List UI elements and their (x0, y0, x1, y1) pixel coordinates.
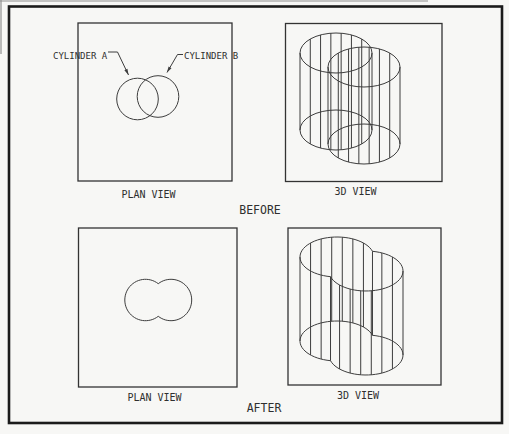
after-plan-frame (79, 228, 238, 387)
before-plan-caption: PLAN VIEW (121, 189, 176, 200)
cylinder-a-label: CYLINDER A (53, 51, 108, 61)
plan-union-outline (125, 279, 192, 320)
before-caption: BEFORE (239, 203, 281, 217)
after-plan-drawing (125, 279, 192, 320)
leader-arrows (108, 52, 183, 75)
leader-line (108, 52, 129, 75)
before-3d-drawing (300, 33, 400, 164)
leader-arrowhead (124, 69, 128, 75)
after-caption: AFTER (247, 401, 282, 415)
before-plan-drawing (117, 76, 179, 120)
after-3d-caption: 3D VIEW (337, 390, 380, 401)
before-3d-caption: 3D VIEW (334, 186, 377, 197)
union-bottom-outline (300, 321, 403, 375)
cylinder-b-label: CYLINDER B (184, 51, 238, 61)
cylinder-top-ellipse (300, 33, 372, 73)
scanned-figure-page: CYLINDER A CYLINDER B PLAN VIEW 3D VIEW … (0, 0, 509, 434)
after-plan-caption: PLAN VIEW (127, 392, 182, 403)
cylinder-bottom-ellipse (328, 124, 400, 164)
cylinder-bottom-ellipse (300, 110, 372, 150)
before-plan-frame (78, 23, 232, 181)
after-3d-drawing (300, 237, 403, 375)
cad-diagram: CYLINDER A CYLINDER B PLAN VIEW 3D VIEW … (0, 0, 509, 434)
leader-arrowhead (167, 66, 171, 72)
union-top-outline (300, 237, 403, 291)
cylinder-top-ellipse (328, 47, 400, 87)
